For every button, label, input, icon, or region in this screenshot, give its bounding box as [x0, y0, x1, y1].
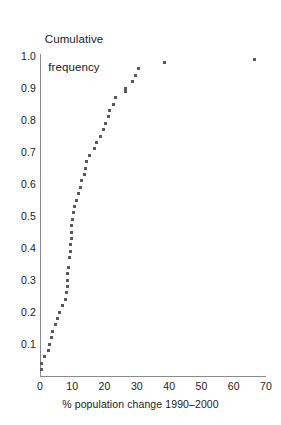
data-point: [79, 186, 82, 189]
data-point: [137, 67, 140, 70]
data-point: [66, 279, 69, 282]
data-point: [84, 167, 87, 170]
cumulative-frequency-chart: Cumulative frequency 0.10.20.30.40.50.60…: [0, 0, 281, 425]
data-point: [56, 317, 59, 320]
data-point: [54, 323, 57, 326]
data-point: [70, 231, 73, 234]
data-point: [131, 80, 134, 83]
data-point: [124, 90, 127, 93]
data-point: [85, 160, 88, 163]
data-point: [108, 109, 111, 112]
data-point: [40, 362, 43, 365]
data-point: [66, 272, 69, 275]
data-point: [67, 266, 70, 269]
data-point: [66, 285, 69, 288]
data-point: [114, 96, 117, 99]
data-point: [68, 256, 71, 259]
data-point: [69, 243, 72, 246]
data-point: [163, 61, 166, 64]
data-point: [47, 349, 50, 352]
plot-area: [0, 0, 281, 425]
data-point: [70, 224, 73, 227]
data-point: [50, 336, 53, 339]
data-point: [107, 115, 110, 118]
data-point: [73, 205, 76, 208]
data-point: [83, 173, 86, 176]
data-point: [48, 343, 51, 346]
data-point: [72, 211, 75, 214]
data-point: [77, 192, 80, 195]
data-point: [75, 199, 78, 202]
data-point: [112, 103, 115, 106]
data-point: [69, 250, 72, 253]
data-point: [61, 304, 64, 307]
data-point: [124, 87, 127, 90]
data-point: [40, 368, 43, 371]
data-point: [134, 74, 137, 77]
data-point: [65, 291, 68, 294]
data-point: [93, 147, 96, 150]
data-point: [95, 141, 98, 144]
data-point: [58, 311, 61, 314]
data-point: [71, 218, 74, 221]
data-point: [70, 237, 73, 240]
data-point: [102, 128, 105, 131]
data-point: [80, 179, 83, 182]
data-point: [88, 154, 91, 157]
x-axis-label: % population change 1990–2000: [0, 398, 281, 410]
data-point: [51, 330, 54, 333]
data-point: [99, 135, 102, 138]
data-point: [253, 58, 256, 61]
data-point: [43, 355, 46, 358]
data-point: [104, 122, 107, 125]
data-point: [64, 298, 67, 301]
